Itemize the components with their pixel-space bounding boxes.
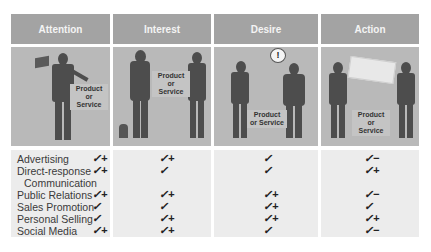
tool-label: Sales Promotion bbox=[17, 201, 94, 213]
stage-illustration-interest: Product or Service bbox=[113, 47, 211, 146]
product-label: Product or Service bbox=[70, 84, 108, 110]
ratings-table: Advertising ✓+ ✓+ ✓ ✓− Direct-response C… bbox=[11, 150, 419, 237]
tool-label: Direct-response bbox=[17, 165, 91, 177]
rating-attention: ✓+ bbox=[92, 224, 107, 237]
rating-desire: ✓ bbox=[263, 224, 272, 237]
rating-interest: ✓ bbox=[159, 164, 168, 177]
table-row: Public Relations ✓+ ✓+ ✓+ ✓− bbox=[11, 189, 419, 201]
tool-label: Advertising bbox=[17, 153, 69, 165]
exclamation-bubble-icon: ! bbox=[270, 48, 286, 63]
stage-header-attention: Attention bbox=[11, 14, 110, 44]
stage-illustration-attention: Product or Service bbox=[11, 47, 110, 146]
table-row: Direct-response Communication ✓+ ✓ ✓ ✓+ bbox=[11, 165, 419, 189]
stage-header-action: Action bbox=[321, 14, 419, 44]
product-label: Product or Service bbox=[152, 71, 190, 97]
rating-attention: ✓+ bbox=[92, 164, 107, 177]
stage-column-desire: Desire ! Product or Service bbox=[214, 14, 318, 44]
stage-header-interest: Interest bbox=[113, 14, 211, 44]
table-row: Personal Selling ✓ ✓+ ✓+ ✓+ bbox=[11, 213, 419, 225]
megaphone-icon bbox=[35, 56, 49, 68]
money-bill-icon bbox=[348, 56, 397, 84]
bag-icon bbox=[119, 124, 128, 138]
stage-header-desire: Desire bbox=[214, 14, 318, 44]
table-row: Sales Promotion ✓ ✓ ✓+ ✓ bbox=[11, 201, 419, 213]
rating-desire: ✓ bbox=[263, 164, 272, 177]
rating-interest: ✓+ bbox=[159, 224, 174, 237]
stage-column-interest: Interest Product or Service bbox=[113, 14, 211, 44]
rating-action: ✓+ bbox=[364, 164, 379, 177]
table-row: Social Media ✓+ ✓+ ✓ ✓− bbox=[11, 225, 419, 237]
product-label: Product or Service bbox=[352, 110, 390, 136]
rating-action: ✓− bbox=[364, 224, 379, 237]
stage-column-action: Action Product or Service bbox=[321, 14, 419, 44]
tool-label: Social Media bbox=[17, 225, 77, 237]
stage-illustration-desire: ! Product or Service bbox=[214, 47, 318, 146]
stage-illustration-action: Product or Service bbox=[321, 47, 419, 146]
stage-column-attention: Attention Product or Service bbox=[11, 14, 110, 44]
table-row: Advertising ✓+ ✓+ ✓ ✓− bbox=[11, 153, 419, 165]
tool-label: Public Relations bbox=[17, 189, 92, 201]
tool-label: Personal Selling bbox=[17, 213, 93, 225]
product-label: Product or Service bbox=[247, 110, 287, 128]
tool-label-continued: Communication bbox=[24, 177, 97, 189]
